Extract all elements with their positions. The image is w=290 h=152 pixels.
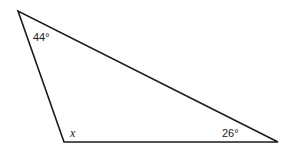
- triangle: [18, 11, 278, 142]
- triangle-diagram: 44° x 26°: [0, 0, 290, 152]
- angle-bottom-right-label: 26°: [222, 127, 239, 139]
- angle-bottom-left-label: x: [69, 126, 76, 140]
- angle-top-label: 44°: [33, 31, 50, 43]
